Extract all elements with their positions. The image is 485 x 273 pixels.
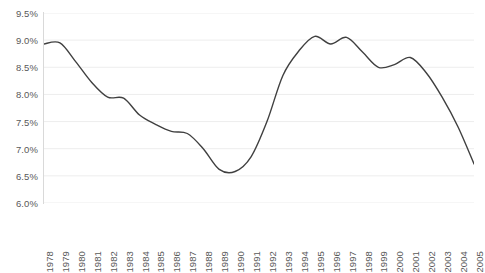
x-tick-label-wrap: 1991 [251,251,252,252]
x-tick-label-wrap: 1992 [267,251,268,252]
y-tick-label: 8.5% [16,62,38,73]
x-tick-label-wrap: 2003 [442,251,443,252]
x-tick-label-wrap: 1993 [283,251,284,252]
x-tick-label-wrap: 1999 [378,251,379,252]
y-tick-label: 6.5% [16,170,38,181]
x-tick-label-wrap: 2005 [474,251,475,252]
x-tick-label: 1991 [251,251,262,273]
y-axis-tick-labels: 6.0%6.5%7.0%7.5%8.0%8.5%9.0%9.5% [0,0,42,254]
data-series-line [44,36,474,173]
x-tick-label: 1992 [267,251,278,273]
x-tick-label-wrap: 1978 [44,251,45,252]
plot-svg [44,13,474,203]
x-tick-label: 1998 [363,251,374,273]
x-tick-label-wrap: 1990 [235,251,236,252]
x-tick-label-wrap: 1998 [363,251,364,252]
x-axis-tick-labels: 1978197919801981198219831984198519861987… [44,205,474,254]
y-tick-label: 9.5% [16,8,38,19]
x-tick-label-wrap: 1981 [92,251,93,252]
y-tick-label: 8.0% [16,89,38,100]
x-tick-label-wrap: 1987 [187,251,188,252]
x-tick-label: 1987 [187,251,198,273]
x-tick-label: 1979 [60,251,71,273]
x-tick-label-wrap: 1988 [203,251,204,252]
x-tick-label-wrap: 2000 [394,251,395,252]
x-tick-label: 1993 [283,251,294,273]
y-tick-label: 9.0% [16,35,38,46]
x-tick-label: 1994 [299,251,310,273]
x-tick-label-wrap: 1983 [124,251,125,252]
x-tick-label-wrap: 1995 [315,251,316,252]
x-tick-label-wrap: 1985 [155,251,156,252]
x-tick-label: 1989 [219,251,230,273]
x-tick-label-wrap: 1979 [60,251,61,252]
gridlines [44,13,474,203]
x-tick-label: 1995 [315,251,326,273]
x-tick-label: 1990 [235,251,246,273]
x-tick-label: 2002 [426,251,437,273]
x-tick-label: 2001 [410,251,421,273]
x-tick-label-wrap: 2002 [426,251,427,252]
x-tick-label: 1999 [378,251,389,273]
x-tick-label: 1988 [203,251,214,273]
plot-area [44,13,474,203]
x-tick-label-wrap: 1994 [299,251,300,252]
x-tick-label-wrap: 1997 [347,251,348,252]
x-tick-label: 2000 [394,251,405,273]
x-tick-label: 1986 [171,251,182,273]
x-tick-label: 1980 [76,251,87,273]
x-tick-label-wrap: 2004 [458,251,459,252]
x-tick-label: 2004 [458,251,469,273]
x-tick-label: 1996 [331,251,342,273]
y-tick-label: 7.0% [16,143,38,154]
x-tick-label-wrap: 1989 [219,251,220,252]
x-tick-label: 1982 [108,251,119,273]
x-tick-label: 1983 [124,251,135,273]
y-tick-label: 7.5% [16,116,38,127]
x-tick-label: 1985 [155,251,166,273]
x-tick-label: 1981 [92,251,103,273]
x-tick-label-wrap: 1986 [171,251,172,252]
x-tick-label: 2003 [442,251,453,273]
x-tick-label-wrap: 2001 [410,251,411,252]
x-tick-label: 2005 [474,251,485,273]
x-tick-label: 1978 [44,251,55,273]
x-tick-label-wrap: 1996 [331,251,332,252]
x-tick-label: 1984 [140,251,151,273]
x-tick-label-wrap: 1980 [76,251,77,252]
y-tick-label: 6.0% [16,198,38,209]
x-tick-label-wrap: 1984 [140,251,141,252]
x-tick-label: 1997 [347,251,358,273]
x-tick-label-wrap: 1982 [108,251,109,252]
